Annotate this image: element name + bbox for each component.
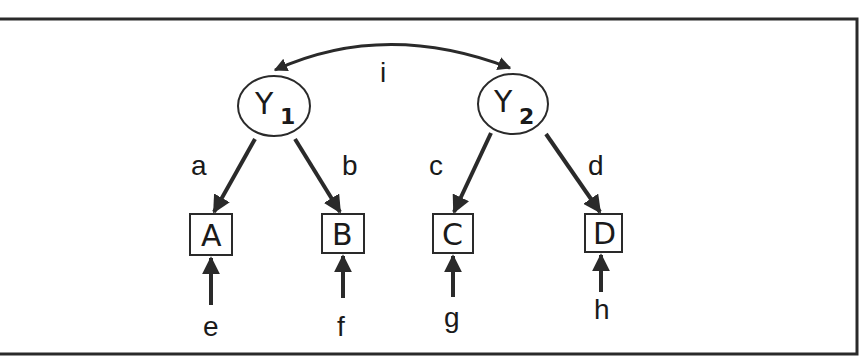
path-label-a: a (191, 150, 207, 181)
frame-border (0, 19, 857, 354)
covariance-label: i (380, 57, 386, 88)
path-b (295, 139, 340, 212)
path-c (454, 133, 491, 212)
svg-text:2: 2 (519, 104, 534, 129)
svg-text:1: 1 (280, 104, 295, 129)
error-label-h: h (594, 294, 610, 325)
path-label-c: c (429, 150, 443, 181)
error-label-f: f (337, 311, 345, 342)
covariance-arrow (275, 44, 510, 70)
path-label-d: d (588, 150, 604, 181)
svg-text:Y: Y (254, 86, 274, 121)
latent-node-y1: Y 1 (238, 76, 310, 136)
observed-node-d: D (585, 214, 622, 252)
error-label-e: e (203, 311, 219, 342)
path-label-b: b (342, 150, 358, 181)
latent-node-y2: Y 2 (478, 74, 548, 134)
svg-text:B: B (332, 217, 353, 252)
observed-node-c: C (433, 214, 473, 253)
path-diagram: i Y 1 Y 2 a b c d A B C D e f g h (0, 0, 863, 357)
svg-text:D: D (593, 216, 616, 251)
svg-text:Y: Y (493, 84, 513, 119)
observed-node-b: B (322, 214, 364, 253)
path-a (214, 139, 255, 212)
observed-node-a: A (190, 214, 232, 255)
svg-text:C: C (442, 217, 463, 252)
svg-text:A: A (201, 218, 222, 253)
error-label-g: g (444, 302, 460, 333)
